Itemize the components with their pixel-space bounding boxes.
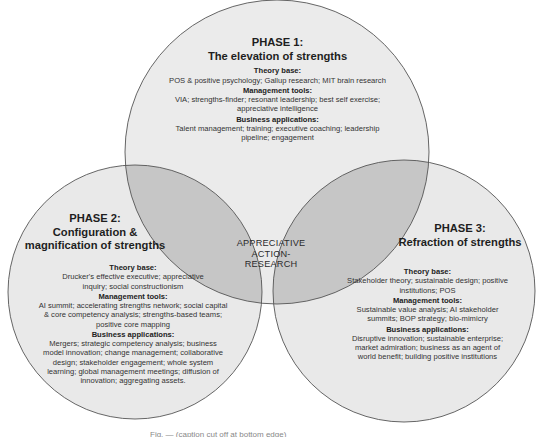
phase3-title-block: PHASE 3: Refraction of strengths — [385, 222, 535, 249]
phase2-apps: Mergers; strategic competency analysis; … — [38, 339, 228, 385]
phase2-subtitle-2: magnification of strengths — [20, 239, 170, 253]
phase2-title-block: PHASE 2: Configuration & magnification o… — [20, 212, 170, 253]
figure-caption-partial: Fig. — (caption cut off at bottom edge) — [150, 430, 410, 437]
phase2-subtitle-1: Configuration & — [20, 226, 170, 240]
phase2-title: PHASE 2: — [20, 212, 170, 226]
phase1-subtitle: The elevation of strengths — [140, 50, 415, 64]
center-line-2: ACTION- — [216, 249, 326, 260]
phase1-theory: POS & positive psychology; Gallup resear… — [140, 76, 415, 85]
phase3-text: Theory base: Stakeholder theory; sustain… — [345, 266, 510, 362]
phase1-text: PHASE 1: The elevation of strengths Theo… — [140, 36, 415, 142]
phase2-apps-label: Business applications: — [38, 330, 228, 339]
phase3-theory: Stakeholder theory; sustainable design; … — [345, 276, 510, 295]
phase1-apps: Talent management; training; executive c… — [140, 124, 415, 143]
center-line-3: RESEARCH — [216, 259, 326, 270]
phase2-theory-label: Theory base: — [38, 263, 228, 272]
center-line-1: APPRECIATIVE — [216, 238, 326, 249]
phase1-title: PHASE 1: — [140, 36, 415, 50]
phase2-tools: AI summit; accelerating strengths networ… — [38, 301, 228, 329]
phase2-text: Theory base: Drucker's effective executi… — [38, 262, 228, 385]
phase3-apps: Disruptive innovation; sustainable enter… — [345, 334, 510, 362]
phase1-apps-label: Business applications: — [140, 115, 415, 124]
phase3-tools-label: Management tools: — [345, 296, 510, 305]
phase3-theory-label: Theory base: — [345, 267, 510, 276]
phase2-theory: Drucker's effective executive; appreciat… — [38, 272, 228, 291]
phase3-title: PHASE 3: — [385, 222, 535, 236]
phase3-subtitle: Refraction of strengths — [385, 236, 535, 250]
phase1-theory-label: Theory base: — [140, 66, 415, 75]
phase1-tools-label: Management tools: — [140, 86, 415, 95]
phase2-tools-label: Management tools: — [38, 292, 228, 301]
phase3-tools: Sustainable value analysis; AI stakehold… — [345, 305, 510, 324]
center-label: APPRECIATIVE ACTION- RESEARCH — [216, 238, 326, 270]
phase1-tools: VIA; strengths-finder; resonant leadersh… — [140, 95, 415, 114]
phase3-apps-label: Business applications: — [345, 325, 510, 334]
